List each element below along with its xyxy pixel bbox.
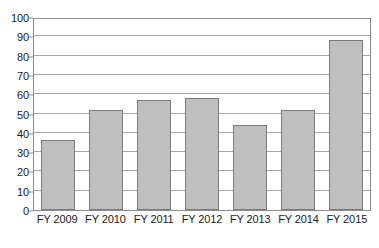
bar-slot bbox=[226, 19, 274, 210]
y-axis-tick-label: 100 bbox=[11, 13, 29, 24]
x-axis-tick-label: FY 2012 bbox=[178, 213, 226, 225]
y-axis-tick-label: 70 bbox=[17, 70, 29, 81]
bar[interactable] bbox=[41, 140, 76, 210]
x-axis-tick-label: FY 2014 bbox=[274, 213, 322, 225]
x-axis-tick-label: FY 2009 bbox=[33, 213, 81, 225]
x-axis-tick-label: FY 2010 bbox=[81, 213, 129, 225]
y-axis-tick-label: 90 bbox=[17, 32, 29, 43]
bar-slot bbox=[274, 19, 322, 210]
y-axis: 0102030405060708090100 bbox=[0, 18, 29, 211]
y-axis-tick-label: 40 bbox=[17, 128, 29, 139]
bar-slot bbox=[178, 19, 226, 210]
bar[interactable] bbox=[233, 125, 268, 210]
bar-slot bbox=[322, 19, 370, 210]
x-axis-tick-label: FY 2011 bbox=[130, 213, 178, 225]
bar[interactable] bbox=[281, 110, 316, 210]
y-axis-tick-label: 10 bbox=[17, 186, 29, 197]
x-axis: FY 2009FY 2010FY 2011FY 2012FY 2013FY 20… bbox=[33, 213, 371, 225]
y-axis-tick-label: 30 bbox=[17, 148, 29, 159]
y-axis-tick-label: 50 bbox=[17, 109, 29, 120]
bar-series bbox=[34, 19, 370, 210]
y-axis-tick-label: 20 bbox=[17, 167, 29, 178]
plot-area bbox=[33, 18, 371, 211]
y-axis-tick-label: 60 bbox=[17, 90, 29, 101]
bar-slot bbox=[130, 19, 178, 210]
bar[interactable] bbox=[89, 110, 124, 210]
bar[interactable] bbox=[137, 100, 172, 210]
bar-slot bbox=[82, 19, 130, 210]
bar-chart: 0102030405060708090100 FY 2009FY 2010FY … bbox=[0, 0, 379, 248]
bar[interactable] bbox=[185, 98, 220, 210]
y-axis-tick-label: 80 bbox=[17, 51, 29, 62]
x-axis-tick-label: FY 2015 bbox=[323, 213, 371, 225]
bar[interactable] bbox=[329, 40, 364, 210]
x-axis-tick-label: FY 2013 bbox=[226, 213, 274, 225]
bar-slot bbox=[34, 19, 82, 210]
